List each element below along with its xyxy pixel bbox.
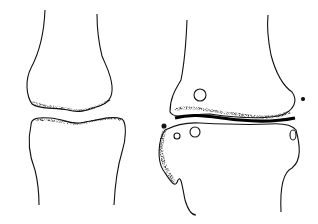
loose-fragment-right [302, 98, 305, 101]
joint-illustration [0, 0, 318, 224]
upper-bone-damaged [170, 15, 295, 118]
lower-bone [29, 118, 125, 205]
upper-bone [27, 10, 112, 111]
healthy-joint [27, 10, 125, 205]
loose-fragment-left [162, 124, 166, 128]
cyst-lower-2 [174, 133, 180, 139]
degenerated-joint [159, 15, 304, 215]
